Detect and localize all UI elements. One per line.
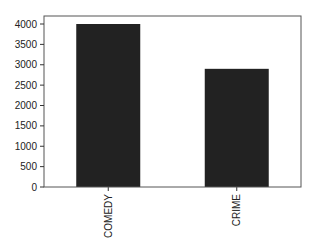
y-tick-label: 1000 [15,141,38,152]
y-tick-label: 0 [31,182,37,193]
y-tick-label: 500 [20,161,37,172]
x-tick-label: CRIME [231,194,242,227]
bar-comedy [76,24,140,187]
y-tick-label: 1500 [15,120,38,131]
y-tick-label: 3000 [15,59,38,70]
y-tick-label: 4000 [15,19,38,30]
bar-crime [205,69,269,187]
y-tick-label: 2000 [15,100,38,111]
bar-chart: COMEDYCRIME05001000150020002500300035004… [0,0,317,249]
y-tick-label: 3500 [15,39,38,50]
plot-area: COMEDYCRIME05001000150020002500300035004… [15,16,301,238]
x-tick-label: COMEDY [103,194,114,238]
y-tick-label: 2500 [15,80,38,91]
